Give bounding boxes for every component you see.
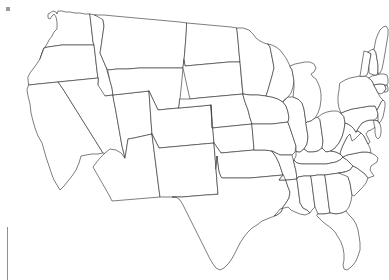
state-minnesota [237, 28, 274, 96]
state-georgia [325, 172, 352, 214]
state-delaware [374, 120, 381, 139]
state-south-dakota [183, 60, 243, 99]
state-montana [95, 15, 187, 70]
map-states-group [27, 11, 388, 270]
margin-rule-line [7, 227, 8, 280]
us-states-outline-map [0, 0, 389, 280]
state-north-dakota [184, 23, 240, 66]
state-florida [317, 211, 360, 270]
page-canvas [0, 0, 389, 280]
